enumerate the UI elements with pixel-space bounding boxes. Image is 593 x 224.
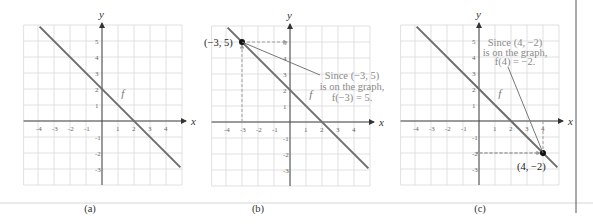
y-tick-label: -1 [95, 134, 101, 142]
grid [24, 25, 182, 185]
graph-panel-a: xy-4-3-2-1123454321-1-2-3f(a) [24, 8, 196, 215]
x-axis-label: x [567, 115, 573, 127]
x-tick-label: -2 [256, 126, 262, 134]
y-tick-label: 5 [283, 39, 287, 47]
y-tick-label: -1 [472, 134, 478, 142]
graph-panel-b: xy-4-3-2-1123454321-1-2-3f(−3, 5)Since (… [204, 9, 384, 215]
x-tick-label: 4 [352, 126, 356, 134]
y-axis-label: y [98, 8, 104, 20]
y-tick-label: 1 [283, 103, 287, 111]
x-tick-label: -3 [240, 126, 246, 134]
x-tick-label: -3 [429, 125, 435, 133]
x-tick-label: 1 [304, 126, 308, 134]
graph-panel-c: xy-4-3-2-1123454321-1-2-3f(4, −2)Since (… [401, 8, 573, 215]
function-line-f [40, 27, 181, 168]
y-tick-label: 4 [95, 54, 99, 62]
x-tick-label: -1 [461, 125, 467, 133]
x-tick-label: 1 [493, 125, 497, 133]
y-tick-label: -2 [283, 151, 289, 159]
point-label: (4, −2) [517, 161, 546, 173]
annotation-text: f(−3) = 5. [332, 92, 373, 104]
annotation-leader [242, 42, 320, 75]
x-tick-label: -4 [224, 126, 230, 134]
point-label: (−3, 5) [204, 37, 233, 49]
y-tick-label: -2 [472, 150, 478, 158]
x-axis-label: x [378, 116, 384, 128]
x-tick-label: 2 [509, 125, 513, 133]
function-graphs-figure: xy-4-3-2-1123454321-1-2-3f(a)xy-4-3-2-11… [0, 0, 593, 224]
x-tick-label: 4 [164, 125, 168, 133]
y-tick-label: 5 [472, 38, 476, 46]
x-tick-label: -4 [413, 125, 419, 133]
x-tick-label: -4 [36, 125, 42, 133]
y-axis-label: y [286, 9, 292, 21]
y-tick-label: 3 [472, 70, 476, 78]
y-tick-label: 1 [95, 102, 99, 110]
panel-caption: (c) [474, 203, 486, 215]
y-tick-label: -2 [95, 150, 101, 158]
y-tick-label: 5 [95, 38, 99, 46]
annotation-text: is on the graph, [320, 81, 385, 92]
y-tick-label: -3 [95, 166, 101, 174]
annotation-leader [508, 67, 543, 153]
y-tick-label: -1 [283, 135, 289, 143]
y-tick-label: -3 [283, 167, 289, 175]
y-axis-label: y [475, 8, 481, 20]
panel-caption: (a) [84, 203, 96, 215]
y-tick-label: 3 [283, 71, 287, 79]
y-tick-label: -3 [472, 166, 478, 174]
y-tick-label: 1 [472, 102, 476, 110]
x-tick-label: 2 [320, 126, 324, 134]
y-tick-label: 3 [95, 70, 99, 78]
x-axis-label: x [190, 115, 196, 127]
x-tick-label: -1 [84, 125, 90, 133]
x-tick-label: -1 [272, 126, 278, 134]
x-tick-label: -3 [52, 125, 58, 133]
x-tick-label: 2 [132, 125, 136, 133]
annotation-text: f(4) = −2. [495, 56, 536, 68]
x-tick-label: 3 [525, 125, 529, 133]
grid [212, 26, 370, 186]
y-tick-label: 4 [472, 54, 476, 62]
x-tick-label: 3 [336, 126, 340, 134]
x-tick-label: 1 [116, 125, 120, 133]
x-tick-label: 3 [148, 125, 152, 133]
x-tick-label: -2 [445, 125, 451, 133]
x-tick-label: -2 [68, 125, 74, 133]
panel-caption: (b) [252, 203, 265, 215]
